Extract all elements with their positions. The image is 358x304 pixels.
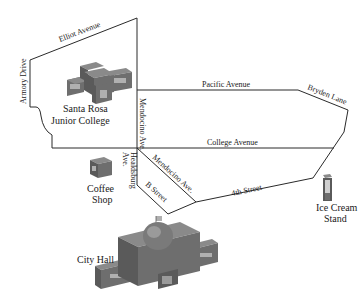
city-hall-label: City Hall [77,254,114,265]
fourth-street-label: 4th Street [231,183,264,198]
city-hall-building-icon [95,216,218,289]
college-avenue-label: College Avenue [207,138,258,147]
east-boundary-road [313,110,348,178]
coffee-shop-label-line2: Shop [92,194,113,205]
pacific-avenue-label: Pacific Avenue [202,80,251,89]
srjc-label-line2: Junior College [51,115,110,126]
armory-drive-road [30,60,52,148]
srjc-label-line1: Santa Rosa [63,103,108,114]
mendocino-ave-vertical-label: Mendocino Ave. [138,98,147,151]
b-street-label: B Street [144,180,170,205]
srjc-building-icon [67,62,132,104]
bryden-lane-label: Bryden Lane [306,83,348,107]
map-canvas: Elliot Avenue Armory Drive Mendocino Ave… [0,0,358,304]
coffee-shop-building-icon [90,157,112,178]
coffee-shop-label-line1: Coffee [87,183,115,194]
b-street-connector-road [168,202,196,214]
healdsburg-label-line2: Ave. [121,152,130,167]
ice-cream-stand-label-line1: Ice Cream [316,202,358,213]
ice-cream-stand-icon [323,174,332,201]
ice-cream-stand-label-line2: Stand [324,213,347,224]
elliot-avenue-road [30,18,137,60]
armory-drive-label: Armory Drive [19,58,28,104]
